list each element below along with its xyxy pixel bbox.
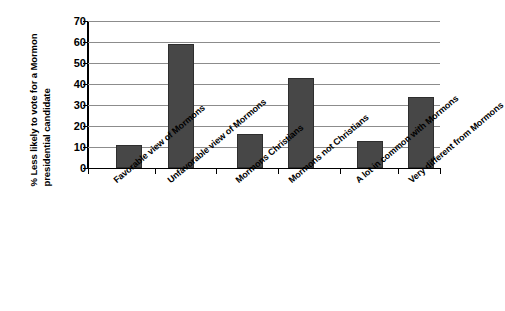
gridline xyxy=(88,105,440,106)
y-axis-tick-mark xyxy=(83,63,88,64)
y-axis-tick-mark xyxy=(83,21,88,22)
x-axis-tick-mark xyxy=(216,168,217,174)
gridline xyxy=(88,21,440,22)
bar xyxy=(357,141,383,168)
y-axis-tick-mark xyxy=(83,105,88,106)
gridline xyxy=(88,63,440,64)
x-axis-tick-mark xyxy=(340,168,341,174)
y-axis-title-line-1: % Less likely to vote for a Mormon xyxy=(29,33,39,186)
x-axis-tick-mark xyxy=(440,168,441,174)
x-axis-tick-mark xyxy=(398,168,399,174)
y-axis-line xyxy=(87,21,89,168)
y-axis-tick-mark xyxy=(83,147,88,148)
bar xyxy=(237,134,263,168)
y-axis-tick-mark xyxy=(83,126,88,127)
y-axis-title-line-2: presidential candidate xyxy=(42,88,52,186)
gridline xyxy=(88,84,440,85)
y-axis-tick-labels: 010203040506070 xyxy=(56,0,86,311)
plot-area xyxy=(88,21,440,168)
bar xyxy=(116,145,142,168)
bar xyxy=(168,44,194,168)
x-axis-tick-mark xyxy=(88,168,89,174)
gridline xyxy=(88,126,440,127)
gridline xyxy=(88,42,440,43)
x-axis-tick-mark xyxy=(278,168,279,174)
y-axis-tick-mark xyxy=(83,84,88,85)
x-axis-tick-mark xyxy=(155,168,156,174)
y-axis-tick-mark xyxy=(83,42,88,43)
bar xyxy=(408,97,434,168)
bar xyxy=(288,78,314,168)
